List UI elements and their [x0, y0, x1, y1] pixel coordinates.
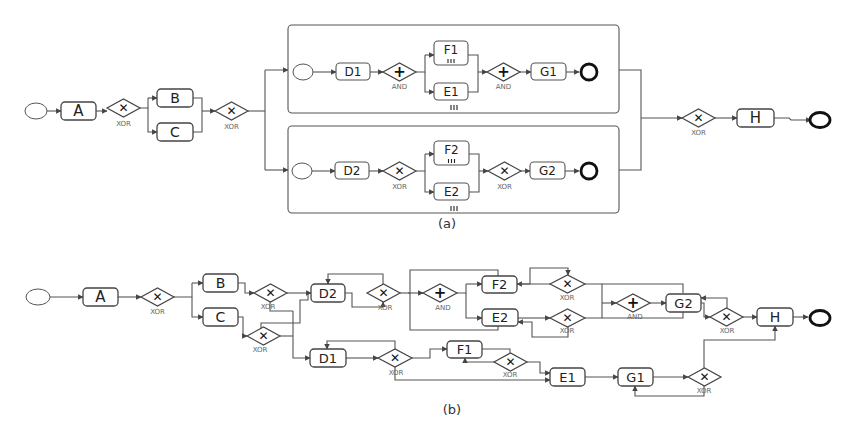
- task-a[interactable]: A: [83, 288, 118, 306]
- plus-icon: +: [627, 294, 640, 312]
- task-f1[interactable]: F1: [447, 341, 482, 358]
- xor-icon: ✕: [378, 286, 388, 300]
- caption-a: (a): [438, 216, 456, 231]
- task-g2[interactable]: G2: [530, 162, 565, 179]
- task-g1[interactable]: G1: [531, 63, 566, 80]
- task-label: A: [95, 288, 106, 306]
- xor-gateway-split[interactable]: ✕ XOR: [141, 288, 174, 316]
- task-e1[interactable]: E1: [434, 83, 468, 100]
- task-label: D1: [319, 351, 337, 366]
- end-event: [581, 64, 597, 80]
- gateway-label: XOR: [389, 369, 404, 377]
- subprocess-1[interactable]: D1 + AND F1 E1 + AND: [288, 25, 619, 113]
- xor-icon: ✕: [226, 104, 236, 118]
- task-f2[interactable]: F2: [434, 141, 469, 165]
- gateway-label: XOR: [116, 120, 131, 128]
- task-label: A: [73, 102, 84, 120]
- gateway-label: XOR: [253, 346, 268, 354]
- gateway-label: XOR: [560, 294, 575, 302]
- xor-gateway-g2[interactable]: ✕ XOR: [710, 308, 743, 335]
- gateway-label: XOR: [224, 123, 239, 131]
- xor-icon: ✕: [258, 329, 268, 343]
- task-c[interactable]: C: [203, 308, 238, 326]
- task-e1[interactable]: E1: [550, 368, 585, 386]
- task-label: G1: [626, 370, 644, 385]
- gateway-label: XOR: [150, 308, 165, 316]
- task-label: F1: [457, 342, 473, 357]
- task-b[interactable]: B: [157, 89, 193, 107]
- task-h[interactable]: H: [757, 308, 793, 326]
- gateway-label: AND: [392, 83, 407, 91]
- task-label: H: [750, 109, 761, 127]
- xor-gateway-join[interactable]: ✕ XOR: [215, 102, 248, 131]
- task-f2[interactable]: F2: [482, 276, 517, 293]
- task-label: G2: [539, 164, 556, 178]
- xor-gateway-d2[interactable]: ✕ XOR: [367, 284, 400, 312]
- xor-gateway-c[interactable]: ✕ XOR: [247, 327, 280, 354]
- task-d1[interactable]: D1: [310, 349, 346, 367]
- xor-icon: ✕: [693, 111, 703, 125]
- task-label: G1: [540, 65, 557, 79]
- gateway-label: AND: [496, 83, 511, 91]
- xor-icon: ✕: [390, 351, 400, 365]
- task-label: B: [170, 90, 180, 106]
- task-label: C: [216, 309, 226, 325]
- and-gateway-join[interactable]: + AND: [616, 294, 650, 322]
- task-h[interactable]: H: [737, 109, 774, 127]
- xor-icon: ✕: [265, 286, 275, 300]
- xor-gateway-g1[interactable]: ✕ XOR: [688, 368, 721, 395]
- gateway-label: XOR: [378, 304, 393, 312]
- task-d1[interactable]: D1: [336, 63, 370, 80]
- task-label: F2: [444, 143, 459, 157]
- task-label: C: [170, 124, 180, 140]
- gateway-label: XOR: [503, 371, 518, 379]
- xor-icon: ✕: [152, 290, 162, 304]
- task-c[interactable]: C: [157, 123, 193, 141]
- xor-gateway-split[interactable]: ✕ XOR: [107, 99, 140, 128]
- task-a[interactable]: A: [61, 102, 96, 120]
- start-event: [293, 64, 313, 80]
- xor-gateway-d1[interactable]: ✕ XOR: [378, 349, 412, 377]
- and-gateway-split[interactable]: + AND: [423, 284, 457, 313]
- gateway-label: AND: [435, 304, 450, 312]
- xor-gateway-f2[interactable]: ✕ XOR: [550, 275, 585, 302]
- task-label: B: [216, 275, 226, 291]
- process-diagrams: A ✕ XOR B C ✕ XOR: [0, 0, 858, 441]
- task-d2[interactable]: D2: [311, 284, 345, 302]
- caption-b: (b): [443, 402, 461, 417]
- subprocess-2[interactable]: D2 ✕ XOR F2 E2 ✕ XOR: [288, 126, 619, 213]
- gateway-label: XOR: [497, 183, 512, 191]
- xor-gateway-b[interactable]: ✕ XOR: [254, 284, 287, 311]
- start-event: [26, 289, 50, 305]
- task-label: D1: [345, 65, 362, 79]
- task-g1[interactable]: G1: [618, 368, 653, 386]
- task-label: E2: [492, 310, 509, 325]
- start-event: [292, 163, 312, 179]
- diagram-a: A ✕ XOR B C ✕ XOR: [25, 25, 830, 231]
- task-b[interactable]: B: [203, 274, 238, 292]
- xor-icon: ✕: [721, 310, 731, 324]
- task-d2[interactable]: D2: [335, 162, 369, 179]
- xor-gateway-final[interactable]: ✕ XOR: [682, 109, 715, 137]
- task-g2[interactable]: G2: [666, 294, 701, 312]
- xor-gateway-f1[interactable]: ✕ XOR: [494, 353, 527, 379]
- gateway-label: XOR: [261, 303, 276, 311]
- gateway-label: XOR: [392, 183, 407, 191]
- plus-icon: +: [497, 63, 510, 81]
- task-label: F1: [444, 43, 459, 57]
- gateway-label: XOR: [697, 387, 712, 395]
- task-label: F2: [492, 277, 508, 292]
- start-event: [25, 103, 47, 119]
- task-e2[interactable]: E2: [434, 183, 469, 200]
- xor-icon: ✕: [562, 311, 572, 325]
- task-label: H: [770, 309, 781, 325]
- task-label: E1: [443, 85, 458, 99]
- gateway-label: XOR: [720, 327, 735, 335]
- xor-icon: ✕: [562, 277, 572, 291]
- gateway-label: XOR: [691, 129, 706, 137]
- task-e2[interactable]: E2: [482, 309, 518, 326]
- xor-gateway-e2[interactable]: ✕ XOR: [550, 309, 585, 335]
- task-f1[interactable]: F1: [434, 41, 468, 65]
- task-label: D2: [319, 286, 337, 301]
- end-event: [810, 113, 830, 128]
